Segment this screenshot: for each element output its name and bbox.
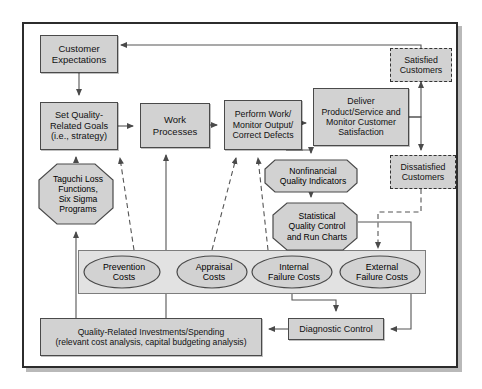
node-external-failure-label: External Failure Costs (339, 255, 425, 289)
diagram-canvas: Customer Expectations Set Quality- Relat… (0, 0, 482, 389)
node-prevention-label: Prevention Costs (83, 255, 165, 289)
node-deliver-product-service[interactable]: Deliver Product/Service and Monitor Cust… (313, 88, 409, 146)
node-internal-failure-costs[interactable]: Internal Failure Costs (251, 255, 333, 289)
node-statistical-quality-control[interactable]: Statistical Quality Control and Run Char… (272, 202, 358, 251)
node-statistical-label: Statistical Quality Control and Run Char… (272, 202, 362, 251)
node-set-quality-goals[interactable]: Set Quality- Related Goals (i.e., strate… (40, 102, 118, 150)
node-internal-failure-label: Internal Failure Costs (251, 255, 337, 289)
node-nonfinancial-label: Nonfinancial Quality Indicators (264, 159, 362, 193)
node-quality-related-investments[interactable]: Quality-Related Investments/Spending (re… (40, 318, 262, 356)
node-customer-expectations[interactable]: Customer Expectations (40, 35, 118, 73)
node-appraisal-costs[interactable]: Appraisal Costs (176, 255, 248, 289)
node-taguchi-loss-functions[interactable]: Taguchi Loss Functions, Six Sigma Progra… (38, 163, 114, 225)
node-external-failure-costs[interactable]: External Failure Costs (339, 255, 421, 289)
node-nonfinancial-quality-indicators[interactable]: Nonfinancial Quality Indicators (264, 159, 358, 193)
node-work-processes[interactable]: Work Processes (140, 103, 210, 148)
node-diagnostic-control[interactable]: Diagnostic Control (288, 318, 384, 340)
node-appraisal-label: Appraisal Costs (176, 255, 252, 289)
node-satisfied-customers[interactable]: Satisfied Customers (390, 48, 452, 82)
node-taguchi-label: Taguchi Loss Functions, Six Sigma Progra… (38, 163, 118, 225)
node-prevention-costs[interactable]: Prevention Costs (83, 255, 161, 289)
node-perform-work[interactable]: Perform Work/ Monitor Output/ Correct De… (224, 100, 302, 150)
node-dissatisfied-customers[interactable]: Dissatisfied Customers (390, 155, 456, 189)
